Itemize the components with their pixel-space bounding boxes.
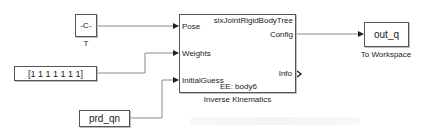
inverse-kinematics-block[interactable]: Pose Weights InitialGuess sixJointRigidB… xyxy=(179,14,296,93)
constant-block-t[interactable]: -C- xyxy=(75,14,97,37)
port-info: Info xyxy=(279,69,292,78)
wire-weights xyxy=(97,53,178,73)
port-initialguess: InitialGuess xyxy=(182,76,224,85)
to-workspace-caption: To Workspace xyxy=(350,50,422,59)
wire-initialguess xyxy=(130,80,178,118)
info-port-icon xyxy=(297,71,301,77)
rigid-body-tree-label: sixJointRigidBodyTree xyxy=(214,16,293,25)
to-workspace-block[interactable]: out_q xyxy=(364,22,409,47)
constant-value: -C- xyxy=(76,15,96,36)
constant-block-weights[interactable]: [1 1 1 1 1 1 1] xyxy=(14,66,97,81)
inverse-kinematics-caption: Inverse Kinematics xyxy=(179,95,296,104)
port-weights: Weights xyxy=(182,49,211,58)
port-pose: Pose xyxy=(182,22,200,31)
to-workspace-value: out_q xyxy=(365,23,408,46)
blurred-artifact xyxy=(190,117,360,125)
from-workspace-value: prd_qn xyxy=(80,111,129,126)
weights-value: [1 1 1 1 1 1 1] xyxy=(15,67,96,80)
constant-caption: T xyxy=(75,39,97,48)
end-effector-label: EE: body6 xyxy=(220,82,257,91)
from-workspace-block[interactable]: prd_qn xyxy=(79,110,130,127)
port-config: Config xyxy=(270,30,293,39)
